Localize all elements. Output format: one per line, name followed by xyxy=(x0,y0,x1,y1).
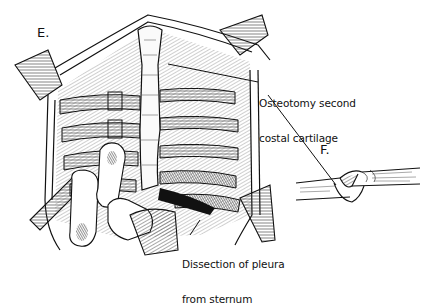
callout-osteotomy-line1: Osteotomy second xyxy=(259,98,356,110)
osteotomy-detail-drawing xyxy=(296,168,420,202)
callout-osteotomy: Osteotomy second costal cartilage xyxy=(259,75,356,167)
panel-label-e: E. xyxy=(37,26,49,40)
callout-pleura-dissection: Dissection of pleura from sternum xyxy=(182,236,285,307)
callout-pleura-line1: Dissection of pleura xyxy=(182,259,285,271)
callout-osteotomy-line2: costal cartilage xyxy=(259,133,356,145)
callout-pleura-line2: from sternum xyxy=(182,294,285,306)
